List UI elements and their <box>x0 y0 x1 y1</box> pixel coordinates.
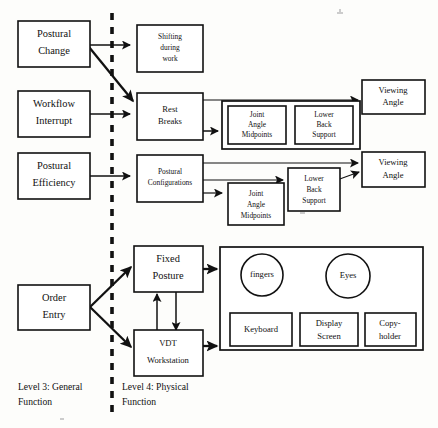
legend-level-3: Level 3: General Function <box>18 381 83 407</box>
node-order-entry[interactable]: Order Entry <box>18 285 90 330</box>
legend-level4-line2: Function <box>122 396 156 407</box>
node-shifting-line3: work <box>162 54 177 63</box>
node-viewing-angle-bottom[interactable]: Viewing Angle <box>362 152 425 187</box>
node-display-line1: Display <box>316 318 343 328</box>
legend-level4-line1: Level 4: Physical <box>122 381 189 392</box>
node-keyboard-label: Keyboard <box>244 324 279 334</box>
node-postural-change[interactable]: Postural Change <box>18 21 90 67</box>
node-order-entry-line1: Order <box>42 292 67 303</box>
node-display-screen[interactable]: Display Screen <box>300 313 358 346</box>
node-order-entry-line2: Entry <box>42 309 66 320</box>
jam-bot-line1: Joint <box>249 189 264 198</box>
node-workflow-interrupt[interactable]: Workflow Interrupt <box>18 91 90 137</box>
node-joint-angle-midpoints-bottom[interactable]: Joint Angle Midpoints <box>228 183 284 225</box>
node-vdt-workstation[interactable]: VDT Workstation <box>134 330 203 376</box>
node-postural-efficiency-line1: Postural <box>37 160 71 171</box>
jam-bot-line2: Angle <box>247 200 266 209</box>
lbs-top-line3: Support <box>312 130 336 139</box>
jam-top-line2: Angle <box>248 120 267 129</box>
va-top-line1: Viewing <box>378 85 408 95</box>
node-postural-configurations[interactable]: Postural Configurations <box>137 155 203 202</box>
jam-bot-line3: Midpoints <box>241 211 272 220</box>
va-bot-line1: Viewing <box>378 157 408 167</box>
node-vdt-line2: Workstation <box>147 355 189 365</box>
legend-level3-line1: Level 3: General <box>18 381 83 392</box>
node-copyholder-line2: holder <box>379 331 401 341</box>
lbs-bot-line2: Back <box>306 185 321 194</box>
node-postural-change-line1: Postural <box>37 28 71 39</box>
node-copyholder-line1: Copy- <box>379 318 401 328</box>
group-physical-components: fingers Eyes Keyboard Display Screen Cop… <box>220 247 423 350</box>
node-keyboard[interactable]: Keyboard <box>230 313 292 346</box>
node-fixed-posture-line1: Fixed <box>156 253 180 264</box>
abstraction-hierarchy-diagram: Postural Change Workflow Interrupt Postu… <box>0 0 438 428</box>
node-lower-back-support-top[interactable]: Lower Back Support <box>295 106 353 144</box>
node-shifting-during-work[interactable]: Shifting during work <box>137 25 203 72</box>
legend-level-4: Level 4: Physical Function <box>122 381 189 407</box>
node-workflow-interrupt-line1: Workflow <box>33 98 75 109</box>
node-shifting-line1: Shifting <box>158 32 182 41</box>
legend-level3-line2: Function <box>18 396 52 407</box>
node-postural-config-line2: Configurations <box>148 178 192 187</box>
node-shifting-line2: during <box>160 43 180 52</box>
node-fixed-posture-line2: Posture <box>152 270 184 281</box>
node-display-line2: Screen <box>317 331 341 341</box>
node-fixed-posture[interactable]: Fixed Posture <box>134 246 203 292</box>
node-fingers[interactable]: fingers <box>241 254 283 296</box>
lbs-bot-line3: Support <box>302 196 326 205</box>
node-postural-efficiency[interactable]: Postural Efficiency <box>18 153 90 199</box>
lbs-top-line1: Lower <box>314 110 334 119</box>
node-postural-change-line2: Change <box>38 45 70 56</box>
diagram-canvas: Postural Change Workflow Interrupt Postu… <box>0 0 438 428</box>
node-copyholder[interactable]: Copy- holder <box>365 313 416 346</box>
va-top-line2: Angle <box>382 97 403 107</box>
node-eyes-label: Eyes <box>340 270 357 280</box>
connectors-row-1 <box>89 45 133 101</box>
node-rest-breaks-line2: Breaks <box>158 116 183 126</box>
va-bot-line2: Angle <box>382 170 403 180</box>
node-eyes[interactable]: Eyes <box>326 254 370 298</box>
node-joint-angle-midpoints-top[interactable]: Joint Angle Midpoints <box>228 106 286 144</box>
lbs-top-line2: Back <box>316 120 331 129</box>
node-viewing-angle-top[interactable]: Viewing Angle <box>362 80 425 114</box>
node-lower-back-support-bottom[interactable]: Lower Back Support <box>288 168 340 211</box>
node-fingers-label: fingers <box>250 269 275 279</box>
node-postural-efficiency-line2: Efficiency <box>32 177 76 188</box>
node-postural-config-line1: Postural <box>158 167 182 176</box>
jam-top-line3: Midpoints <box>242 130 273 139</box>
node-rest-breaks[interactable]: Rest Breaks <box>137 93 203 140</box>
node-rest-breaks-line1: Rest <box>162 104 178 114</box>
group-rest-break-components: Joint Angle Midpoints Lower Back Support <box>222 101 360 149</box>
node-vdt-line1: VDT <box>159 338 177 348</box>
node-workflow-interrupt-line2: Interrupt <box>36 115 72 126</box>
jam-top-line1: Joint <box>250 110 265 119</box>
lbs-bot-line1: Lower <box>304 174 324 183</box>
